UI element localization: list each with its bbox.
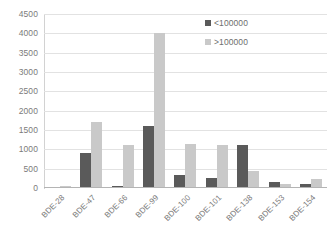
y-tick-label: 4000 [19,28,38,38]
bar-high[interactable] [154,33,165,188]
y-tick-label: 4500 [19,9,38,19]
legend-label: <100000 [214,18,248,28]
y-axis: 4500 4000 3500 3000 2500 2000 1500 1000 … [0,0,41,240]
legend-swatch-icon [205,39,211,45]
legend-label: >100000 [214,37,248,47]
bars-layer [44,14,327,188]
bar-low[interactable] [143,126,154,188]
bar-group [296,14,327,188]
bar-high[interactable] [248,171,259,188]
legend-entry-high[interactable]: >100000 [205,37,248,47]
x-axis: BDE-28 BDE-47 BDE-66 BDE-99 BDE-100 BDE-… [44,189,327,240]
bar-group [75,14,106,188]
legend-swatch-icon [205,20,211,26]
x-tick-label: BDE-153 [256,193,286,223]
bar-high[interactable] [91,122,102,189]
y-tick-label: 500 [24,164,38,174]
bar-chart: 4500 4000 3500 3000 2500 2000 1500 1000 … [0,0,331,240]
x-tick-label: BDE-47 [71,193,98,220]
x-tick-label: BDE-99 [134,193,161,220]
bar-low[interactable] [80,153,91,188]
plot-area [44,14,327,188]
x-tick-label: BDE-28 [39,193,66,220]
bar-group [138,14,169,188]
x-tick-label: BDE-100 [162,193,192,223]
legend: <100000 >100000 [205,18,248,47]
y-tick-label: 0 [33,183,38,193]
y-tick-label: 1000 [19,144,38,154]
bar-low[interactable] [237,145,248,188]
x-tick-label: BDE-66 [102,193,129,220]
bar-high[interactable] [123,145,134,188]
bar-group [107,14,138,188]
bar-group [264,14,295,188]
y-tick-label: 1500 [19,125,38,135]
y-tick-label: 3000 [19,67,38,77]
y-tick-label: 2000 [19,106,38,116]
x-tick-label: BDE-154 [288,193,318,223]
legend-entry-low[interactable]: <100000 [205,18,248,28]
bar-high[interactable] [185,144,196,188]
bar-high[interactable] [217,145,228,188]
bar-group [170,14,201,188]
y-tick-label: 2500 [19,86,38,96]
x-axis-line [44,187,327,188]
y-tick-label: 3500 [19,48,38,58]
x-tick-label: BDE-101 [194,193,224,223]
bar-group [44,14,75,188]
x-tick-label: BDE-138 [225,193,255,223]
